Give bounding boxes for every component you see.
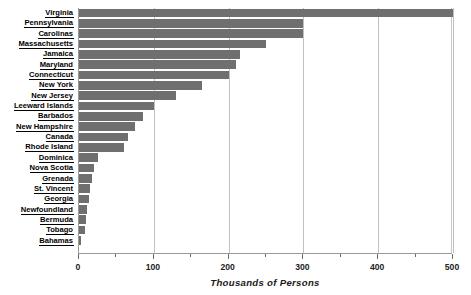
bar-row (79, 132, 451, 142)
category-label-text: Jamaica (43, 49, 74, 59)
bar-row (79, 39, 451, 49)
bar (79, 102, 154, 111)
bar (79, 205, 87, 214)
bar (79, 122, 135, 131)
category-label-text: Nova Scotia (30, 163, 74, 173)
category-label-text: New Hampshire (16, 122, 74, 132)
category-label: Dominica (0, 153, 74, 163)
axis-tick-label: 500 (445, 262, 459, 272)
category-label: New Hampshire (0, 122, 74, 132)
bar-row (79, 142, 451, 152)
bar-row (79, 153, 451, 163)
bar-row (79, 174, 451, 184)
category-label-text: New York (39, 80, 74, 90)
bar (79, 174, 92, 183)
category-label-text: Carolinas (38, 29, 74, 39)
category-label: Rhode Island (0, 142, 74, 152)
bar-row (79, 18, 451, 28)
category-label-text: New Jersey (31, 91, 74, 101)
axis-tick-label: 300 (295, 262, 309, 272)
axis-minor-tick (115, 254, 116, 257)
category-label-text: Tobago (46, 225, 74, 235)
category-label: Georgia (0, 194, 74, 204)
category-label: St. Vincent (0, 184, 74, 194)
bar (79, 50, 240, 59)
bar-row (79, 29, 451, 39)
category-label-text: Bermuda (40, 215, 74, 225)
category-label: Barbados (0, 111, 74, 121)
bar-row (79, 70, 451, 80)
bar-chart: VirginiaPennsylvaniaCarolinasMassachuset… (0, 0, 471, 295)
category-label: Newfoundland (0, 205, 74, 215)
bar (79, 19, 303, 28)
category-label-text: Grenada (42, 174, 74, 184)
category-label-text: Rhode Island (25, 142, 74, 152)
category-label-text: Newfoundland (21, 205, 74, 215)
bar (79, 184, 90, 193)
axis-minor-tick (190, 254, 191, 257)
bar (79, 81, 202, 90)
category-label: Nova Scotia (0, 163, 74, 173)
bar (79, 29, 303, 38)
category-label-text: Leeward Islands (14, 101, 74, 111)
category-label-text: Dominica (39, 153, 74, 163)
bar-row (79, 163, 451, 173)
bar-row (79, 60, 451, 70)
bar-row (79, 225, 451, 235)
category-label-column: VirginiaPennsylvaniaCarolinasMassachuset… (0, 8, 74, 246)
category-label: Jamaica (0, 49, 74, 59)
bar-row (79, 184, 451, 194)
category-label: Bermuda (0, 215, 74, 225)
x-axis-title: Thousands of Persons (78, 277, 452, 288)
x-axis-ticks (78, 254, 452, 260)
category-label-text: Pennsylvania (24, 18, 74, 28)
axis-tick-label: 400 (370, 262, 384, 272)
axis-minor-tick (415, 254, 416, 257)
category-label-text: Georgia (44, 194, 74, 204)
bar-row (79, 215, 451, 225)
category-label: Virginia (0, 8, 74, 18)
gridline (453, 8, 454, 253)
bar-row (79, 8, 451, 18)
axis-tick (377, 254, 378, 259)
category-label: Massachusetts (0, 39, 74, 49)
bar-row (79, 122, 451, 132)
axis-minor-tick (340, 254, 341, 257)
bar (79, 215, 86, 224)
axis-minor-tick (265, 254, 266, 257)
bar (79, 91, 176, 100)
bar (79, 226, 85, 235)
bar (79, 164, 94, 173)
axis-tick (153, 254, 154, 259)
bar-row (79, 49, 451, 59)
axis-tick (228, 254, 229, 259)
category-label: Connecticut (0, 70, 74, 80)
category-label-text: Bahamas (39, 236, 74, 246)
category-label-text: Connecticut (29, 70, 74, 80)
category-label: Canada (0, 132, 74, 142)
bar (79, 195, 89, 204)
bar (79, 60, 236, 69)
category-label-text: Maryland (40, 60, 74, 70)
bar-row (79, 205, 451, 215)
bar-row (79, 80, 451, 90)
category-label-text: Massachusetts (19, 39, 74, 49)
category-label-text: Canada (46, 132, 74, 142)
bar-row (79, 236, 451, 246)
axis-tick (78, 254, 79, 259)
axis-tick-label: 0 (76, 262, 81, 272)
category-label-text: St. Vincent (34, 184, 74, 194)
axis-tick-label: 200 (220, 262, 234, 272)
x-axis-tick-labels: 0100200300400500 (0, 262, 471, 274)
category-label: New York (0, 80, 74, 90)
category-label-text: Barbados (38, 111, 74, 121)
category-label: Bahamas (0, 236, 74, 246)
bar (79, 40, 266, 49)
bar (79, 9, 453, 18)
category-label: Tobago (0, 225, 74, 235)
axis-tick (302, 254, 303, 259)
bar (79, 112, 143, 121)
bar (79, 71, 229, 80)
bar-series (79, 8, 451, 253)
category-label: Carolinas (0, 29, 74, 39)
